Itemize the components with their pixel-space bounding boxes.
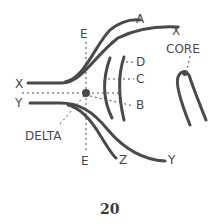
label-e-bottom: E [81,154,89,168]
delta-point [82,89,90,97]
label-a: A [136,12,145,26]
type-line-x [28,27,178,83]
label-b: B [136,98,144,112]
label-delta: DELTA [25,129,62,143]
label-x-top-right: X [172,24,180,38]
label-core: CORE [166,42,200,56]
core-loop [177,72,206,125]
label-y-bottom-right: Y [167,153,176,167]
ridge-d [120,57,125,120]
core-point [182,70,188,76]
figure-number: 20 [100,201,120,217]
label-e-top: E [80,27,88,41]
fingerprint-delta-diagram: E A X CORE D C B X Y DELTA E Z Y 20 [0,0,219,224]
label-d: D [136,55,145,69]
ridge-b [105,58,112,118]
b-leader [90,96,134,106]
label-z: Z [119,153,127,167]
label-y-left: Y [14,96,23,110]
label-x-left: X [15,77,23,91]
core-leader [187,56,190,70]
label-c: C [136,72,144,86]
